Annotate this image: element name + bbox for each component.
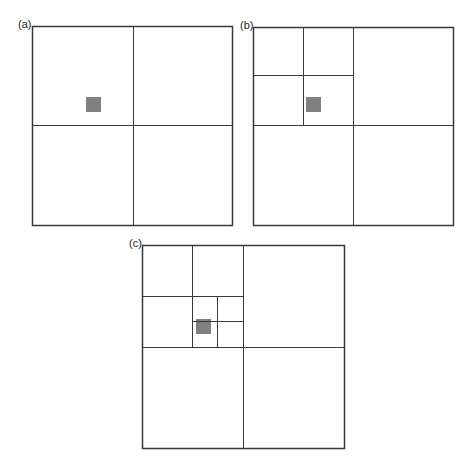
panel-label-c: (c)	[129, 237, 142, 249]
panel-b	[254, 28, 454, 226]
panel-label-a: (a)	[18, 18, 31, 30]
panel-label-b: (b)	[240, 19, 253, 31]
panel-c	[143, 246, 345, 449]
target-cell	[86, 97, 101, 112]
panel-a	[33, 27, 233, 226]
target-cell	[306, 97, 321, 112]
figure-canvas	[0, 0, 475, 468]
quadtree-figure: (a) (b) (c)	[0, 0, 475, 468]
